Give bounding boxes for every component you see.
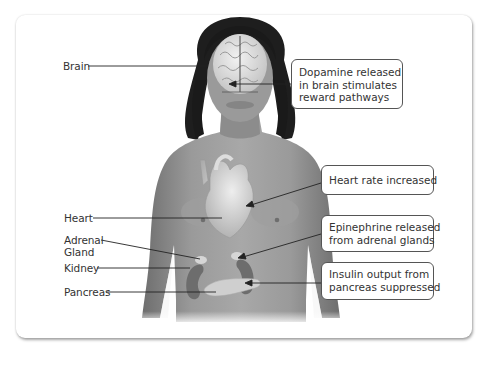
callout-epinephrine: Epinephrine released from adrenal glands (321, 215, 434, 252)
label-adrenal-line2: Gland (64, 246, 104, 258)
adrenal-gland-left (195, 256, 207, 264)
label-adrenal-line1: Adrenal (64, 234, 104, 246)
callout-dopamine-line3: reward pathways (299, 91, 395, 104)
label-kidney: Kidney (64, 262, 99, 274)
callout-heart-rate-line1: Heart rate increased (329, 174, 426, 187)
callout-insulin-line2: pancreas suppressed (329, 281, 426, 294)
callout-dopamine: Dopamine released in brain stimulates re… (291, 59, 403, 109)
callout-epinephrine-line2: from adrenal glands (329, 234, 426, 247)
label-heart: Heart (64, 212, 93, 224)
callout-dopamine-line1: Dopamine released (299, 66, 395, 79)
callout-insulin: Insulin output from pancreas suppressed (321, 262, 434, 300)
callout-heart-rate: Heart rate increased (321, 165, 434, 195)
brain-organ (213, 34, 267, 94)
callout-epinephrine-line1: Epinephrine released (329, 221, 426, 234)
label-pancreas: Pancreas (64, 286, 110, 298)
callout-dopamine-line2: in brain stimulates (299, 79, 395, 92)
label-brain: Brain (63, 60, 90, 72)
label-adrenal-gland: Adrenal Gland (64, 234, 104, 258)
callout-insulin-line1: Insulin output from (329, 268, 426, 281)
